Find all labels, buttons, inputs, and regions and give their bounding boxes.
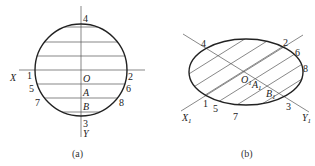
diagram-canvas: 4 X 1 5 7 2 6 8 O A B 3 Y (a) 4 2 6 8 1 [0,0,315,166]
label-y-a: Y [83,128,90,139]
label-x-a: X [9,72,17,83]
label-a-a: A [82,87,90,98]
figure-a: 4 X 1 5 7 2 6 8 O A B 3 Y (a) [9,6,145,160]
label-b1: B1 [266,88,276,101]
label-y1: Y1 [302,112,311,125]
label-b-a: B [83,101,89,112]
label-2-a: 2 [128,71,133,82]
label-o-a: O [83,73,90,84]
figure-b: 4 2 6 8 1 5 7 3 O1 A1 B1 X1 Y1 (b) [160,0,315,160]
label-8-b: 8 [303,63,308,74]
caption-b: (b) [241,148,253,160]
label-8-a: 8 [119,97,124,108]
label-1-b: 1 [203,98,208,109]
label-4-b: 4 [201,38,206,49]
label-1-a: 1 [27,70,32,81]
label-x1: X1 [181,112,192,125]
label-a1: A1 [251,79,262,92]
label-7-b: 7 [233,111,238,122]
label-7-a: 7 [35,97,40,108]
label-6-b: 6 [295,47,300,58]
label-5-a: 5 [29,83,34,94]
label-3-b: 3 [286,101,291,112]
label-2-b: 2 [283,37,288,48]
caption-a: (a) [72,148,83,160]
label-6-a: 6 [126,83,131,94]
label-5-b: 5 [213,103,218,114]
ellipse-outline [189,39,303,105]
label-4-a: 4 [83,13,88,24]
